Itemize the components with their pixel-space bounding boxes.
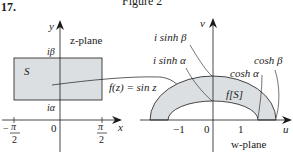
tick-minus-1: −1 [173, 123, 185, 135]
w-plane-label: w-plane [231, 138, 267, 150]
leader-i-sinh-beta [190, 45, 212, 76]
v-axis-label: v [200, 17, 205, 29]
origin-label: 0 [51, 122, 57, 134]
i-alpha-label: iα [47, 102, 56, 113]
region-f-s-label: f[S] [226, 88, 243, 100]
figure-caption: Figure 2 [122, 0, 162, 8]
x-axis-label: x [117, 121, 123, 133]
y-axis-label: y [48, 20, 54, 32]
cosh-beta-label: cosh β [254, 54, 283, 66]
right-tick-denominator: 2 [99, 134, 104, 145]
i-sinh-alpha-label: i sinh α [153, 54, 186, 66]
z-plane-label: z-plane [70, 34, 102, 46]
figure-canvas: 17. Figure 2 y x z-plane S iβ iα 0 − π 2… [0, 0, 293, 153]
left-tick-denominator: 2 [12, 134, 17, 145]
leader-cosh-beta [275, 70, 279, 118]
left-tick-numerator: π [11, 121, 17, 132]
i-sinh-beta-label: i sinh β [154, 31, 187, 43]
z-plane-diagram: y x z-plane S iβ iα 0 − π 2 π 2 [2, 20, 123, 152]
cosh-alpha-label: cosh α [230, 67, 259, 79]
tick-0: 0 [204, 123, 210, 135]
problem-number: 17. [1, 0, 16, 14]
i-beta-label: iβ [47, 46, 55, 57]
u-axis-label: u [283, 123, 289, 135]
tick-1: 1 [238, 123, 244, 135]
region-s-label: S [24, 65, 30, 77]
mapping-label: f(z) = sin z [109, 81, 157, 94]
left-tick-sign: − [3, 123, 9, 134]
right-tick-numerator: π [98, 121, 104, 132]
